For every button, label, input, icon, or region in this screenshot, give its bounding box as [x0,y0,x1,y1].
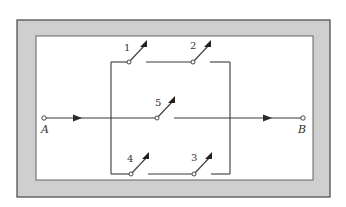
terminal-a-node [42,116,46,120]
switch-5-label: 5 [155,97,161,108]
switch-pivot [129,172,133,176]
frame [17,20,330,197]
terminal-b-label: B [297,123,306,136]
switch-network-diagram: A B 1 2 5 [0,0,346,207]
switch-pivot [191,60,195,64]
switch-pivot [155,116,159,120]
terminal-b-node [301,116,305,120]
terminal-a-label: A [40,123,49,136]
switch-pivot [127,60,131,64]
switch-4-label: 4 [127,153,133,164]
switch-2-label: 2 [190,40,196,51]
frame-inner [36,36,313,180]
switch-pivot [192,172,196,176]
switch-3-label: 3 [191,152,197,163]
switch-1-label: 1 [124,42,130,53]
